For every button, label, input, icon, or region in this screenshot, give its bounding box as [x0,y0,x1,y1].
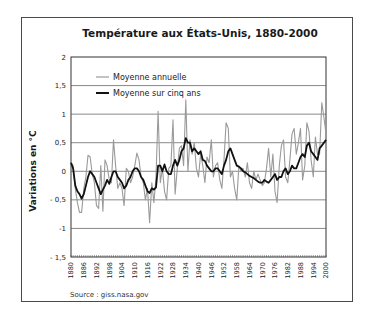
x-tick-label: 1910 [131,262,139,279]
x-tick-label: 1958 [233,262,241,279]
y-tick-label: 0,5 [55,139,66,147]
x-axis-ticks: 1880188618921898190419101916192219281934… [67,255,330,279]
x-tick-label: 1994 [310,262,318,279]
y-tick-label: 1 [62,111,66,119]
x-tick-label: 1880 [67,262,75,279]
series-annual-mean [71,100,326,223]
x-tick-label: 1892 [93,262,101,279]
y-tick-label: 0 [62,168,66,176]
y-tick-label: 2 [62,54,66,62]
x-tick-label: 1970 [259,262,267,279]
x-tick-label: 1946 [208,262,216,279]
line-chart: 21,510,50- 0,5-1- 1,5 188018861892189819… [0,0,374,320]
legend-label-five-year: Moyenne sur cinq ans [113,89,201,98]
data-series [71,100,326,223]
x-tick-label: 1952 [220,262,228,279]
x-tick-label: 1916 [144,262,152,279]
x-tick-label: 1922 [157,262,165,279]
x-tick-label: 1934 [182,262,190,279]
plot-area [71,57,326,257]
legend-label-annual: Moyenne annuelle [113,73,187,82]
gridlines [71,57,326,257]
x-tick-label: 1982 [284,262,292,279]
x-tick-label: 1904 [118,262,126,279]
y-axis-ticks: 21,510,50- 0,5-1- 1,5 [50,54,66,262]
x-tick-label: 1988 [297,262,305,279]
x-tick-label: 1886 [80,262,88,279]
x-tick-label: 1898 [106,262,114,279]
y-tick-label: 1,5 [55,82,66,90]
x-tick-label: 1964 [246,262,254,279]
series-five-year-mean [71,138,326,199]
y-tick-label: - 1,5 [50,254,66,262]
x-tick-label: 1976 [271,262,279,279]
x-tick-label: 1940 [195,262,203,279]
y-tick-label: -1 [59,225,66,233]
x-tick-label: 1928 [169,262,177,279]
y-tick-label: - 0,5 [50,196,66,204]
x-tick-label: 2000 [322,262,330,279]
